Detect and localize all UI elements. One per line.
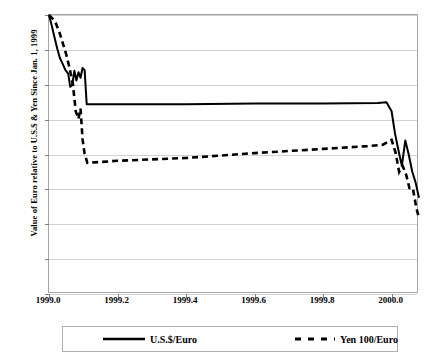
series-line-usd-euro bbox=[49, 15, 419, 198]
x-tick-label: 1999.8 bbox=[292, 296, 352, 305]
x-tick-label: 2000.0 bbox=[361, 296, 421, 305]
legend-swatch-solid bbox=[103, 334, 145, 344]
y-axis-title: Value of Euro relative to U.S.$ & Yen Si… bbox=[29, 3, 39, 263]
plot-area bbox=[48, 14, 418, 293]
legend-entry-usd-euro: U.S.$/Euro bbox=[103, 334, 197, 345]
series-layer bbox=[49, 15, 419, 294]
legend-label-usd-euro: U.S.$/Euro bbox=[150, 334, 197, 345]
series-line-yen-euro bbox=[49, 15, 419, 218]
legend-swatch-dashed bbox=[293, 334, 335, 344]
legend-label-yen-euro: Yen 100/Euro bbox=[340, 334, 398, 345]
x-tick-label: 1999.6 bbox=[224, 296, 284, 305]
chart-legend: U.S.$/Euro Yen 100/Euro bbox=[62, 326, 398, 352]
x-tick-label: 1999.0 bbox=[18, 296, 78, 305]
exchange-rate-chart: Value of Euro relative to U.S.$ & Yen Si… bbox=[0, 0, 431, 358]
x-tick-label: 1999.4 bbox=[155, 296, 215, 305]
x-tick-label: 1999.2 bbox=[87, 296, 147, 305]
legend-entry-yen-euro: Yen 100/Euro bbox=[293, 334, 398, 345]
